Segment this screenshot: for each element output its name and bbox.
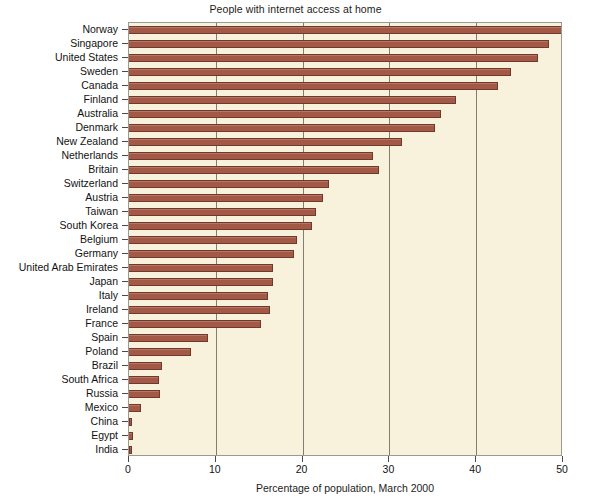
y-axis-tick xyxy=(122,449,128,450)
plot-inner xyxy=(129,23,561,455)
bar-row xyxy=(129,121,561,135)
y-axis-tick xyxy=(122,421,128,422)
y-axis-tick-label: Germany xyxy=(75,246,118,260)
bar-row xyxy=(129,331,561,345)
y-axis-tick-label: United States xyxy=(55,50,118,64)
bar xyxy=(129,152,373,160)
bar-row xyxy=(129,387,561,401)
y-axis-tick-label: Norway xyxy=(82,22,118,36)
y-axis-tick-label: Mexico xyxy=(85,400,118,414)
bar-row xyxy=(129,443,561,455)
bar xyxy=(129,236,297,244)
bar-row xyxy=(129,359,561,373)
y-axis-tick-label: Italy xyxy=(99,288,118,302)
y-axis-tick-label: Singapore xyxy=(70,36,118,50)
bar-row xyxy=(129,205,561,219)
bar xyxy=(129,306,270,314)
bar xyxy=(129,68,511,76)
y-axis-tick-label: Ireland xyxy=(86,302,118,316)
y-axis-tick xyxy=(122,435,128,436)
bar xyxy=(129,82,498,90)
x-axis-tick xyxy=(302,456,303,462)
bar xyxy=(129,376,159,384)
bar xyxy=(129,334,208,342)
x-axis-tick xyxy=(562,456,563,462)
y-axis-tick xyxy=(122,323,128,324)
y-axis-tick-label: Belgium xyxy=(80,232,118,246)
bar xyxy=(129,320,261,328)
y-axis-tick xyxy=(122,183,128,184)
bar-row xyxy=(129,233,561,247)
bar-row xyxy=(129,51,561,65)
bar-row xyxy=(129,93,561,107)
bar xyxy=(129,222,312,230)
bar-row xyxy=(129,79,561,93)
y-axis-tick xyxy=(122,253,128,254)
bar xyxy=(129,110,441,118)
y-axis-tick-label: China xyxy=(91,414,118,428)
y-axis-tick xyxy=(122,351,128,352)
x-axis-tick-label: 10 xyxy=(195,463,235,475)
y-axis-tick-label: Egypt xyxy=(91,428,118,442)
y-axis-tick-label: Russia xyxy=(86,386,118,400)
bar xyxy=(129,96,456,104)
y-axis-tick xyxy=(122,337,128,338)
bar-row xyxy=(129,303,561,317)
bar-row xyxy=(129,345,561,359)
x-axis-tick-label: 20 xyxy=(282,463,322,475)
bar-row xyxy=(129,429,561,443)
bar xyxy=(129,390,160,398)
bar-row xyxy=(129,149,561,163)
y-axis-tick xyxy=(122,211,128,212)
bar-row xyxy=(129,23,561,37)
y-axis-tick xyxy=(122,71,128,72)
bar-row xyxy=(129,373,561,387)
y-axis-tick-label: Switzerland xyxy=(64,176,118,190)
y-axis-tick xyxy=(122,43,128,44)
y-axis-tick xyxy=(122,239,128,240)
y-axis-tick xyxy=(122,57,128,58)
y-axis-tick xyxy=(122,407,128,408)
bar-row xyxy=(129,65,561,79)
bar-row xyxy=(129,317,561,331)
y-axis-tick-label: Britain xyxy=(88,162,118,176)
bar-row xyxy=(129,275,561,289)
y-axis-tick-label: Japan xyxy=(89,274,118,288)
bar-row xyxy=(129,219,561,233)
x-axis-tick xyxy=(215,456,216,462)
bar-row xyxy=(129,247,561,261)
y-axis-tick xyxy=(122,197,128,198)
y-axis-tick-label: Austria xyxy=(85,190,118,204)
bar-row xyxy=(129,261,561,275)
x-axis-tick xyxy=(475,456,476,462)
x-axis-tick xyxy=(388,456,389,462)
y-axis-tick-label: Denmark xyxy=(75,120,118,134)
bar xyxy=(129,250,294,258)
y-axis-tick-label: Taiwan xyxy=(85,204,118,218)
y-axis-tick-label: United Arab Emirates xyxy=(19,260,118,274)
x-axis-title: Percentage of population, March 2000 xyxy=(128,482,562,494)
y-axis-tick xyxy=(122,99,128,100)
bar xyxy=(129,26,561,34)
bar xyxy=(129,348,191,356)
bar xyxy=(129,278,273,286)
bar-series xyxy=(129,23,561,455)
y-axis-tick xyxy=(122,155,128,156)
y-axis-tick xyxy=(122,29,128,30)
y-axis-tick xyxy=(122,225,128,226)
bar xyxy=(129,138,402,146)
x-axis-tick xyxy=(128,456,129,462)
chart-title: People with internet access at home xyxy=(0,3,591,15)
bar xyxy=(129,418,132,426)
bar xyxy=(129,292,268,300)
bar xyxy=(129,194,323,202)
y-axis-tick xyxy=(122,365,128,366)
bar-row xyxy=(129,163,561,177)
bar xyxy=(129,40,549,48)
bar-row xyxy=(129,107,561,121)
y-axis-tick xyxy=(122,85,128,86)
bar xyxy=(129,124,435,132)
bar xyxy=(129,264,273,272)
y-axis-labels: NorwaySingaporeUnited StatesSwedenCanada… xyxy=(0,22,124,456)
y-axis-tick xyxy=(122,309,128,310)
